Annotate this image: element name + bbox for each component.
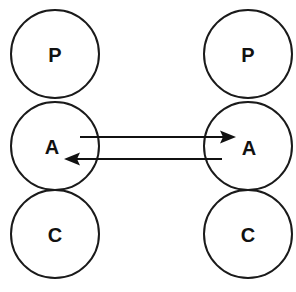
- label-right-c: C: [241, 224, 255, 246]
- label-right-a: A: [242, 137, 256, 159]
- node-left-p[interactable]: P: [11, 10, 99, 98]
- node-left-c[interactable]: C: [11, 190, 99, 278]
- right-column: P A C: [204, 10, 292, 278]
- node-right-p[interactable]: P: [204, 10, 292, 98]
- pac-diagram: P A C P A C: [0, 0, 296, 292]
- node-left-a[interactable]: A: [11, 102, 99, 190]
- label-left-c: C: [48, 224, 62, 246]
- label-right-p: P: [241, 44, 254, 66]
- node-right-a[interactable]: A: [204, 102, 292, 190]
- label-left-a: A: [45, 136, 59, 158]
- label-left-p: P: [48, 44, 61, 66]
- left-column: P A C: [11, 10, 99, 278]
- diagram-canvas: P A C P A C: [0, 0, 296, 292]
- node-right-c[interactable]: C: [204, 190, 292, 278]
